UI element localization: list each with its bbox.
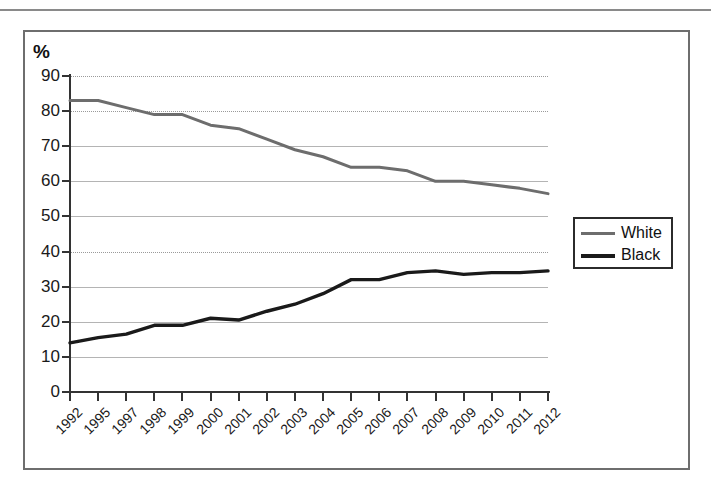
y-tick-60	[62, 180, 70, 182]
x-tick-2012	[547, 392, 549, 401]
y-tick-label-80: 80	[24, 102, 60, 119]
y-tick-label-50: 50	[24, 207, 60, 224]
gridline-50	[70, 216, 548, 217]
x-tick-2004	[322, 392, 324, 401]
x-tick-2001	[238, 392, 240, 401]
y-tick-label-40: 40	[24, 243, 60, 260]
y-tick-label-70: 70	[24, 137, 60, 154]
gridline-40	[70, 252, 548, 253]
legend-label-white: White	[621, 223, 662, 243]
y-tick-label-90: 90	[24, 67, 60, 84]
x-tick-2007	[406, 392, 408, 401]
gridline-60	[70, 181, 548, 182]
x-tick-1997	[125, 392, 127, 401]
gridline-20	[70, 322, 548, 323]
gridline-70	[70, 146, 548, 147]
x-tick-1995	[97, 392, 99, 401]
x-tick-1992	[69, 392, 71, 401]
y-tick-70	[62, 145, 70, 147]
y-tick-90	[62, 75, 70, 77]
x-tick-2000	[210, 392, 212, 401]
page-top-rule	[0, 9, 711, 11]
chart-page: % 0102030405060708090 199219951997199819…	[0, 0, 711, 489]
gridline-30	[70, 287, 548, 288]
x-tick-2008	[435, 392, 437, 401]
x-tick-2011	[519, 392, 521, 401]
y-tick-label-10: 10	[24, 348, 60, 365]
legend-item-black: Black	[581, 245, 669, 265]
legend-item-white: White	[581, 223, 669, 243]
y-tick-label-20: 20	[24, 313, 60, 330]
gridlines	[70, 76, 548, 392]
y-tick-30	[62, 286, 70, 288]
x-tick-2003	[294, 392, 296, 401]
legend-swatch-black	[581, 254, 615, 258]
legend-box: White Black	[573, 217, 673, 269]
y-tick-50	[62, 215, 70, 217]
y-tick-20	[62, 321, 70, 323]
legend-swatch-white	[581, 232, 615, 235]
gridline-10	[70, 357, 548, 358]
y-tick-label-0: 0	[24, 383, 60, 400]
x-tick-2002	[266, 392, 268, 401]
x-tick-1998	[153, 392, 155, 401]
y-axis-line	[69, 74, 71, 394]
x-tick-2006	[378, 392, 380, 401]
y-tick-80	[62, 110, 70, 112]
y-tick-10	[62, 356, 70, 358]
y-axis-unit-label: %	[33, 41, 50, 63]
x-tick-2009	[463, 392, 465, 401]
y-tick-label-30: 30	[24, 278, 60, 295]
plot-area	[70, 76, 548, 392]
x-tick-2005	[350, 392, 352, 401]
gridline-90	[70, 76, 548, 77]
x-axis-line	[69, 391, 550, 393]
y-tick-40	[62, 251, 70, 253]
x-tick-1999	[181, 392, 183, 401]
legend-label-black: Black	[621, 245, 660, 265]
gridline-80	[70, 111, 548, 112]
y-tick-label-60: 60	[24, 172, 60, 189]
x-tick-2010	[491, 392, 493, 401]
